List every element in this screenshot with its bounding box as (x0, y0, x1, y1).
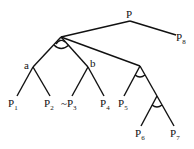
leaf-p5: P5 (118, 97, 128, 112)
and-arc-n1 (54, 45, 69, 49)
and-or-tree-diagram: P a b P1 P2 ~P3 P4 P5 P6 P7 P8 (0, 0, 194, 149)
tree-edges (17, 21, 176, 126)
leaf-labels: P1 P2 ~P3 P4 P5 P6 P7 P8 (8, 31, 186, 142)
leaf-p1: P1 (8, 97, 18, 112)
node-labels: P a b (24, 8, 132, 71)
node-a-label: a (24, 59, 29, 71)
edge-n1-c (61, 37, 140, 66)
edge-d-p7 (157, 96, 174, 126)
edge-root-n1 (61, 21, 130, 37)
and-arc-d (152, 105, 162, 107)
edge-n1-a (33, 37, 61, 67)
edge-b-p4 (88, 67, 104, 96)
root-label: P (126, 8, 132, 20)
edge-root-p8 (130, 21, 176, 35)
leaf-p6: P6 (135, 127, 145, 142)
leaf-p7: P7 (170, 127, 180, 142)
edge-b-p3 (72, 67, 88, 96)
leaf-p2: P2 (44, 97, 54, 112)
and-arc-c (135, 75, 145, 77)
edge-c-p5 (124, 66, 140, 96)
edge-c-d (140, 66, 157, 96)
node-b-label: b (90, 57, 96, 69)
leaf-p4: P4 (100, 97, 110, 112)
edge-d-p6 (141, 96, 157, 126)
leaf-p8: P8 (176, 31, 186, 46)
leaf-not-p3: ~P3 (61, 97, 77, 112)
edge-a-p1 (17, 67, 33, 96)
edge-a-p2 (33, 67, 50, 96)
